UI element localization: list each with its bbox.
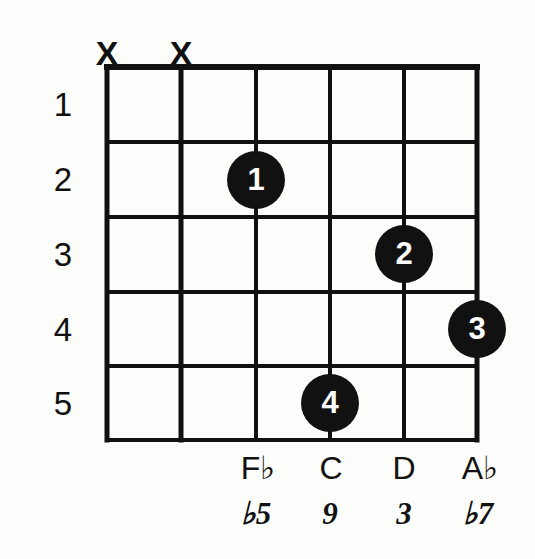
note-label-string-3: F♭ <box>241 452 276 484</box>
fret-number-4: 4 <box>32 313 72 346</box>
finger-dot-2-label: 2 <box>395 238 412 269</box>
fret-number-5: 5 <box>32 387 72 420</box>
mute-marker-string-1: X <box>96 36 119 70</box>
note-label-string-6: A♭ <box>462 452 498 484</box>
finger-dot-4-label: 4 <box>321 387 338 418</box>
interval-label-string-3: ♭5 <box>241 498 272 529</box>
finger-dot-3-label: 3 <box>468 313 485 344</box>
interval-label-string-4: 9 <box>322 498 338 529</box>
finger-dot-2: 2 <box>375 225 433 283</box>
chord-diagram: 1 2 3 4 5 X X 1 2 3 4 F♭ C D A♭ ♭5 9 3 ♭… <box>0 0 535 559</box>
finger-dot-1: 1 <box>227 151 285 209</box>
fret-number-3: 3 <box>32 238 72 271</box>
finger-dot-3: 3 <box>448 300 506 358</box>
finger-dot-4: 4 <box>301 374 359 432</box>
interval-label-string-5: 3 <box>396 498 412 529</box>
note-label-string-5: D <box>392 452 415 484</box>
fret-number-1: 1 <box>32 88 72 121</box>
finger-dot-1-label: 1 <box>247 164 264 195</box>
note-label-string-4: C <box>319 452 342 484</box>
fret-number-2: 2 <box>32 163 72 196</box>
interval-label-string-6: ♭7 <box>463 498 494 529</box>
mute-marker-string-2: X <box>170 36 193 70</box>
